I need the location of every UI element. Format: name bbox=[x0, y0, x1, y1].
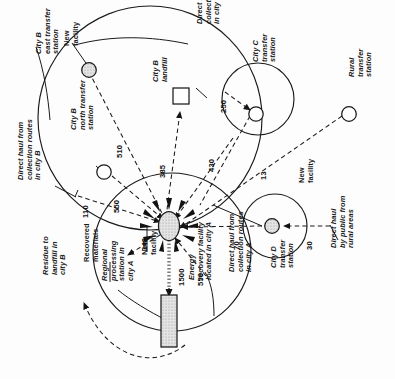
label-city-d-transfer-station: City D transfer station bbox=[270, 240, 296, 268]
callout-residue-to-landfill: Residue to landfill in city B bbox=[42, 236, 68, 275]
flow-value-550-city-a: 550 bbox=[196, 273, 205, 286]
flow-value-550-north: 550 bbox=[112, 200, 121, 213]
node-city-b-east-transfer-station[interactable] bbox=[82, 63, 97, 78]
callout-direct-haul-city-b-left: Direct haul from collection routes in ci… bbox=[17, 119, 43, 180]
leader-direct-b-upper bbox=[196, 88, 207, 98]
link-430 bbox=[175, 138, 233, 219]
flow-value-13: 13 bbox=[259, 171, 268, 180]
callout-direct-haul-public-rural: Direct haul by public from rural areas bbox=[330, 196, 356, 248]
label-rural-transfer-station: Rural transfer station bbox=[348, 49, 374, 77]
node-rural-transfer-station[interactable] bbox=[342, 107, 357, 122]
label-energy-recovery-facility: Energy recovery facility located in city… bbox=[188, 222, 214, 280]
network-diagram-svg bbox=[0, 0, 395, 379]
node-city-c-transfer-station[interactable] bbox=[249, 107, 263, 121]
link-250 bbox=[225, 92, 250, 110]
flow-value-510: 510 bbox=[115, 145, 124, 158]
callout-new-facility-east: New facility bbox=[63, 22, 80, 46]
callout-new-facility-city-d: New facility bbox=[298, 159, 315, 183]
flow-value-70: 70 bbox=[232, 241, 241, 250]
callout-recovered-materials: Recovered materials bbox=[83, 223, 100, 262]
flow-value-430: 430 bbox=[207, 159, 216, 172]
node-city-b-landfill[interactable] bbox=[173, 88, 189, 104]
leader-direct-b2 bbox=[75, 190, 78, 197]
link-510 bbox=[89, 72, 166, 221]
label-city-b-east-transfer-station: City B east transfer station bbox=[35, 8, 61, 54]
label-regional-processing-station: Regional processing station in city A bbox=[101, 241, 135, 281]
flow-value-110: 110 bbox=[81, 205, 90, 218]
label-city-b-landfill: City B landfill bbox=[152, 57, 169, 82]
hub-ellipse bbox=[159, 212, 180, 241]
node-energy-recovery-facility[interactable] bbox=[161, 295, 177, 347]
label-city-c-transfer-station: City C transfer station bbox=[252, 34, 278, 62]
leader-direct-b bbox=[55, 186, 76, 197]
diagram-canvas: New facility City B east transfer statio… bbox=[0, 0, 395, 379]
label-city-b-north-transfer-station: City B north transfer station bbox=[70, 80, 96, 130]
node-city-b-north-transfer-station[interactable] bbox=[97, 165, 111, 179]
leader-region-arc-b bbox=[75, 38, 188, 45]
callout-direct-haul-city-b-upper: Direct haul from collection routes in ci… bbox=[196, 0, 222, 24]
flow-value-250: 250 bbox=[219, 100, 228, 113]
flow-value-385: 385 bbox=[158, 165, 167, 178]
node-city-d-transfer-station[interactable] bbox=[265, 219, 280, 234]
flow-value-348: 348 bbox=[140, 238, 149, 251]
flow-value-1500: 1500 bbox=[177, 268, 186, 286]
flow-value-30: 30 bbox=[305, 241, 314, 250]
city-c-service-boundary bbox=[222, 63, 294, 135]
leader-new-facility-east bbox=[72, 43, 88, 66]
